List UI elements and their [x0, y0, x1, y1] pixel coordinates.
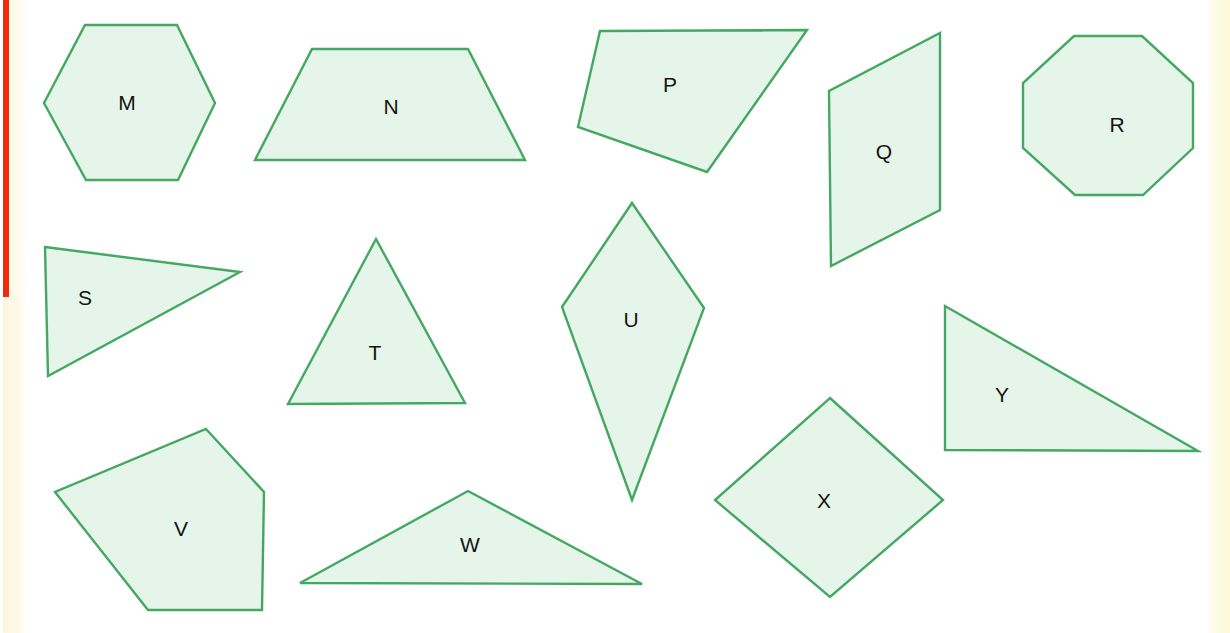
kite-outline[interactable]	[562, 203, 704, 500]
shape-n[interactable]: N	[255, 49, 525, 160]
scalene-triangle-outline[interactable]	[45, 247, 240, 376]
shape-q[interactable]: Q	[829, 33, 940, 266]
shapes-group: MNPQRSTUVWXY	[44, 25, 1198, 610]
shape-label-m: M	[118, 91, 136, 114]
shape-label-x: X	[817, 489, 831, 512]
right-triangle-outline[interactable]	[945, 306, 1198, 451]
shape-label-s: S	[78, 286, 92, 309]
shape-label-v: V	[174, 517, 188, 540]
shape-label-q: Q	[876, 140, 892, 163]
shape-label-w: W	[460, 533, 480, 556]
octagon-outline[interactable]	[1023, 36, 1193, 195]
worksheet-page: MNPQRSTUVWXY	[0, 0, 1230, 633]
pentagon-outline[interactable]	[55, 429, 264, 610]
shape-r[interactable]: R	[1023, 36, 1193, 195]
shape-w[interactable]: W	[300, 491, 642, 584]
shape-label-u: U	[623, 308, 638, 331]
shape-m[interactable]: M	[44, 25, 215, 180]
shape-label-t: T	[369, 341, 382, 364]
shape-x[interactable]: X	[715, 398, 943, 597]
shape-y[interactable]: Y	[945, 306, 1198, 451]
quadrilateral-outline[interactable]	[578, 30, 807, 172]
shape-u[interactable]: U	[562, 203, 704, 500]
shape-label-n: N	[383, 95, 398, 118]
isosceles-triangle-outline[interactable]	[288, 239, 465, 404]
shape-p[interactable]: P	[578, 30, 807, 172]
shape-v[interactable]: V	[55, 429, 264, 610]
shape-t[interactable]: T	[288, 239, 465, 404]
shape-s[interactable]: S	[45, 247, 240, 376]
shape-label-r: R	[1109, 113, 1124, 136]
shape-label-p: P	[663, 73, 677, 96]
shape-label-y: Y	[995, 383, 1009, 406]
polygon-canvas: MNPQRSTUVWXY	[0, 0, 1230, 633]
